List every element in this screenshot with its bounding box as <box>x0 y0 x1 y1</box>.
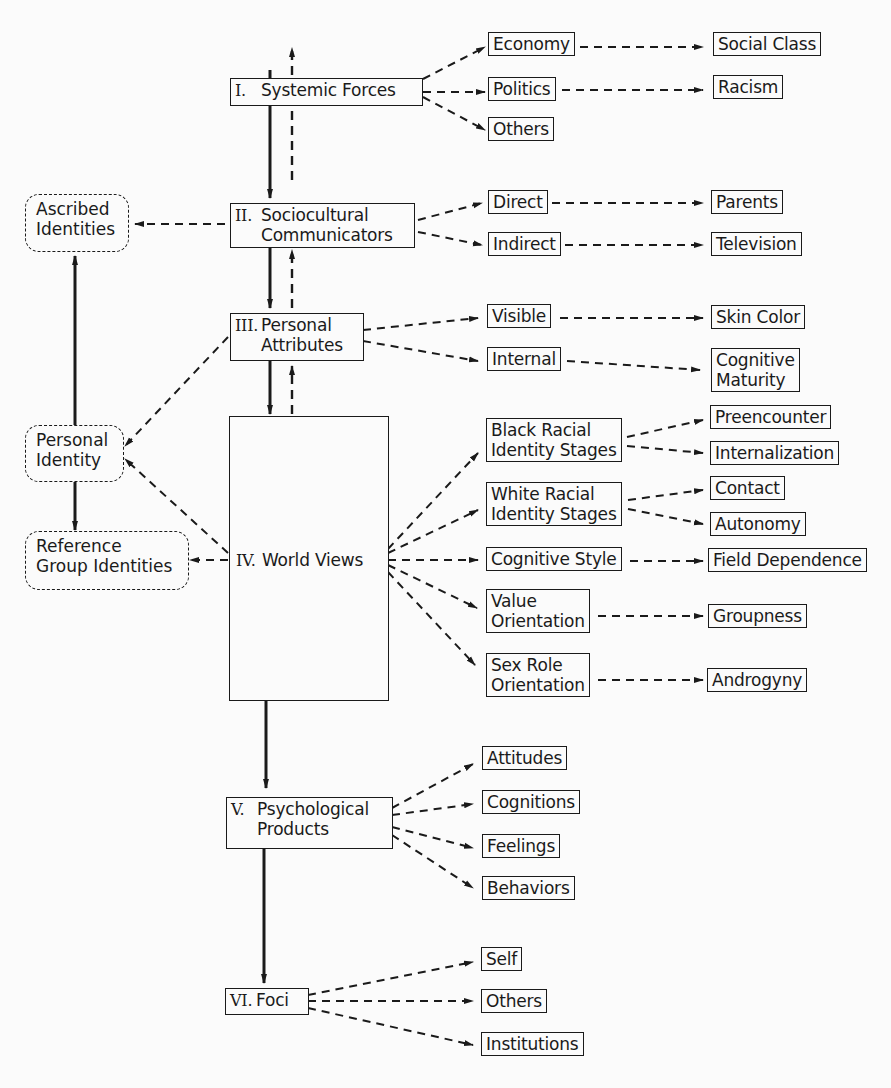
label-line-1: Personal <box>36 430 108 450</box>
leaf-androgyny: Androgyny <box>707 668 807 692</box>
node-label: World Views <box>262 550 363 570</box>
leaf-cognitive-maturity: CognitiveMaturity <box>711 348 800 392</box>
leaf-racism: Racism <box>713 75 783 99</box>
branch-visible: Visible <box>487 304 551 328</box>
leaf-feelings: Feelings <box>482 834 560 858</box>
leaf-institutions: Institutions <box>481 1032 584 1056</box>
branch-cognitive-style: Cognitive Style <box>486 547 622 571</box>
leaf-internalization: Internalization <box>710 441 839 465</box>
label-line-2: Identity Stages <box>491 504 617 524</box>
leaf-behaviors: Behaviors <box>482 876 575 900</box>
node-world-views: IV.World Views <box>229 416 389 701</box>
leaf-parents: Parents <box>711 190 783 214</box>
branch-direct: Direct <box>488 190 548 214</box>
branch-white-racial-identity: White RacialIdentity Stages <box>486 482 622 526</box>
branch-internal: Internal <box>487 347 561 371</box>
label-line-2: Attributes <box>261 335 343 355</box>
label-line-1: Personal <box>261 315 332 335</box>
label-line-2: Orientation <box>491 675 585 695</box>
label-line-1: Sociocultural <box>261 205 368 225</box>
label-line-2: Group Identities <box>36 556 172 576</box>
label-line-1: Psychological <box>257 799 369 819</box>
numeral: III. <box>235 316 261 336</box>
node-label: Systemic Forces <box>261 80 396 100</box>
numeral: IV. <box>236 551 262 571</box>
label-line-1: Cognitive <box>716 350 795 370</box>
branch-others: Others <box>488 117 554 141</box>
leaf-contact: Contact <box>710 476 785 500</box>
label-line-1: Black Racial <box>491 420 591 440</box>
leaf-self: Self <box>481 947 522 971</box>
label-line-1: Reference <box>36 536 122 556</box>
leaf-preencounter: Preencounter <box>710 405 831 429</box>
branch-value-orientation: ValueOrientation <box>486 589 590 633</box>
node-systemic-forces: I.Systemic Forces <box>230 78 423 106</box>
node-ascribed-identities: AscribedIdentities <box>25 194 129 252</box>
branch-black-racial-identity: Black RacialIdentity Stages <box>486 418 622 462</box>
node-sociocultural-communicators: II.SocioculturalCommunicators <box>230 203 415 248</box>
node-label: SocioculturalCommunicators <box>261 205 393 245</box>
leaf-skin-color: Skin Color <box>711 305 805 329</box>
label-line-2: Products <box>257 819 329 839</box>
node-psychological-products: V.PsychologicalProducts <box>226 797 393 849</box>
node-personal-identity: PersonalIdentity <box>25 425 124 482</box>
label-line-2: Identity Stages <box>491 440 617 460</box>
label-line-2: Identities <box>36 219 115 239</box>
leaf-foci-others: Others <box>481 989 547 1013</box>
label-line-2: Orientation <box>491 611 585 631</box>
label-line-1: Sex Role <box>491 655 562 675</box>
node-foci: VI.Foci <box>225 988 309 1015</box>
leaf-field-dependence: Field Dependence <box>708 548 867 572</box>
node-reference-group-identities: ReferenceGroup Identities <box>25 531 189 590</box>
numeral: I. <box>235 81 261 101</box>
label-line-2: Maturity <box>716 370 785 390</box>
branch-sex-role-orientation: Sex RoleOrientation <box>486 653 590 697</box>
leaf-television: Television <box>711 232 802 256</box>
label-line-1: Ascribed <box>36 199 110 219</box>
label-line-1: White Racial <box>491 484 595 504</box>
numeral: II. <box>235 206 261 226</box>
leaf-cognitions: Cognitions <box>482 790 580 814</box>
world-views-label-wrap: IV.World Views <box>236 550 363 571</box>
label-line-2: Communicators <box>261 225 393 245</box>
leaf-groupness: Groupness <box>708 604 807 628</box>
numeral: VI. <box>230 991 256 1011</box>
leaf-attitudes: Attitudes <box>482 746 567 770</box>
branch-politics: Politics <box>488 77 556 101</box>
numeral: V. <box>231 800 257 820</box>
branch-economy: Economy <box>488 32 575 56</box>
leaf-autonomy: Autonomy <box>710 512 806 536</box>
leaf-social-class: Social Class <box>713 32 821 56</box>
label-line-1: Value <box>491 591 537 611</box>
label-line-2: Identity <box>36 450 101 470</box>
node-label: PsychologicalProducts <box>257 799 369 839</box>
node-label: Foci <box>256 990 289 1010</box>
branch-indirect: Indirect <box>488 232 561 256</box>
node-label: PersonalAttributes <box>261 315 343 355</box>
node-personal-attributes: III.PersonalAttributes <box>230 313 364 361</box>
